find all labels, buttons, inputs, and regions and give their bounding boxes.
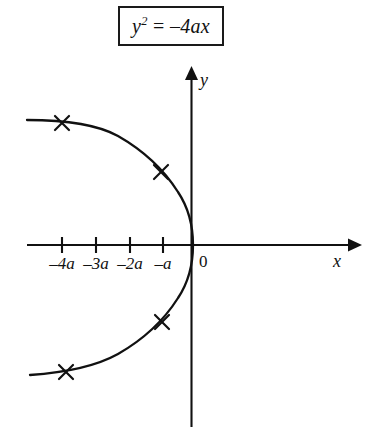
y-axis-arrowhead: [185, 66, 198, 80]
x-tick-label-minus-a: –a: [149, 255, 177, 272]
marker-upper-inner: [154, 165, 168, 179]
x-tick-label-minus-2a: –2a: [114, 255, 146, 272]
x-tick-label-minus-3a: –3a: [80, 255, 112, 272]
marker-lower-inner: [155, 315, 169, 329]
parabola-upper-branch: [27, 120, 193, 245]
parabola-plot: [0, 0, 375, 441]
figure-canvas: y2 = –4ax: [0, 0, 375, 441]
x-tick-label-minus-4a: –4a: [46, 255, 78, 272]
x-axis-arrowhead: [348, 239, 362, 252]
y-axis-label: y: [200, 71, 208, 89]
x-axis-label: x: [333, 252, 341, 270]
origin-label: 0: [199, 253, 208, 270]
